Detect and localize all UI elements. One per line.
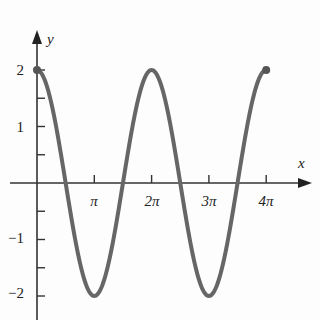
xtick-label-pi: π: [90, 193, 98, 209]
ytick-label-2: 2: [17, 62, 25, 78]
ytick-label-neg2: −2: [8, 285, 24, 301]
x-axis-label: x: [297, 155, 305, 171]
xtick-label-3pi: 3π: [200, 193, 217, 209]
y-axis-arrow-icon: [32, 30, 42, 44]
y-axis-label: y: [45, 31, 54, 47]
end-point: [262, 66, 270, 74]
chart-svg: y x π 2π 3π 4π 2 1 −1 −2: [0, 0, 320, 320]
ytick-label-1: 1: [17, 119, 25, 135]
xtick-label-4pi: 4π: [258, 193, 274, 209]
chart-root: y x π 2π 3π 4π 2 1 −1 −2: [0, 0, 320, 320]
x-axis-arrow-icon: [298, 178, 312, 188]
ytick-label-neg1: −1: [8, 230, 24, 246]
xtick-label-2pi: 2π: [144, 193, 160, 209]
start-point: [33, 66, 41, 74]
